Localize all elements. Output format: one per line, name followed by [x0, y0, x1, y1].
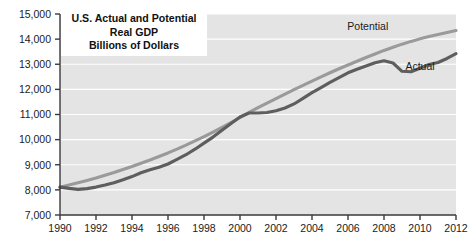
chart-title-line-3: Billions of Dollars [89, 39, 179, 53]
x-tick-labels-group: 1990199219941996199820002002200420062008… [48, 215, 468, 234]
y-tick-label-8000: 8,000 [25, 184, 51, 196]
chart-title-line-1: U.S. Actual and Potential [72, 12, 197, 26]
y-tick-labels-group: 7,0008,0009,00010,00011,00012,00013,0001… [19, 8, 60, 221]
gdp-chart: 7,0008,0009,00010,00011,00012,00013,0001… [0, 0, 472, 246]
y-tick-label-15000: 15,000 [19, 8, 51, 20]
x-tick-label-1996: 1996 [156, 222, 180, 234]
y-tick-label-13000: 13,000 [19, 58, 51, 70]
x-tick-label-2006: 2006 [336, 222, 360, 234]
x-tick-label-1994: 1994 [120, 222, 144, 234]
y-tick-label-14000: 14,000 [19, 33, 51, 45]
x-tick-label-2002: 2002 [264, 222, 288, 234]
x-tick-label-2004: 2004 [300, 222, 324, 234]
x-tick-label-1992: 1992 [84, 222, 108, 234]
x-tick-label-2000: 2000 [228, 222, 252, 234]
x-tick-label-1990: 1990 [48, 222, 72, 234]
chart-title-box: U.S. Actual and Potential Real GDP Billi… [61, 9, 207, 56]
chart-title-line-2: Real GDP [110, 26, 158, 40]
x-tick-label-2010: 2010 [408, 222, 432, 234]
x-tick-label-2008: 2008 [372, 222, 396, 234]
y-tick-label-7000: 7,000 [25, 209, 51, 221]
x-tick-label-2012: 2012 [444, 222, 468, 234]
series-label-actual: Actual [405, 60, 434, 72]
y-tick-label-9000: 9,000 [25, 159, 51, 171]
y-tick-label-11000: 11,000 [20, 108, 51, 120]
y-tick-label-12000: 12,000 [19, 83, 51, 95]
series-label-potential: Potential [347, 20, 388, 32]
y-tick-label-10000: 10,000 [19, 133, 51, 145]
x-tick-label-1998: 1998 [192, 222, 216, 234]
